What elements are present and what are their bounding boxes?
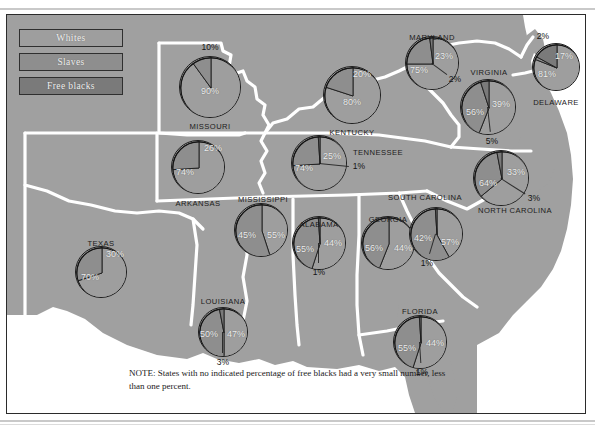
- figure-note: NOTE: States with no indicated percentag…: [129, 367, 459, 393]
- legend-item-slaves: Slaves: [19, 53, 123, 71]
- page-rule-bottom: [0, 420, 595, 422]
- legend-label-free-blacks: Free blacks: [47, 81, 95, 91]
- legend-label-whites: Whites: [56, 33, 85, 43]
- pie-label-delaware-slaves: 2%: [513, 31, 573, 41]
- legend-item-free-blacks: Free blacks: [19, 77, 123, 95]
- cut-off-title: [330, 0, 580, 7]
- state-label-delaware: DELAWARE: [496, 98, 586, 107]
- figure-frame: Whites Slaves Free blacks MISSOURI90%10%…: [6, 14, 586, 414]
- pie-label-delaware-whites: 81%: [517, 69, 577, 79]
- page-rule-top: [0, 8, 595, 10]
- legend-item-whites: Whites: [19, 29, 123, 47]
- legend: Whites Slaves Free blacks: [19, 29, 123, 101]
- legend-label-slaves: Slaves: [57, 57, 84, 67]
- page-rule-bottom-thin: [0, 424, 595, 425]
- scanned-page: Whites Slaves Free blacks MISSOURI90%10%…: [0, 0, 595, 431]
- pie-label-delaware-free-blacks: 17%: [534, 51, 586, 61]
